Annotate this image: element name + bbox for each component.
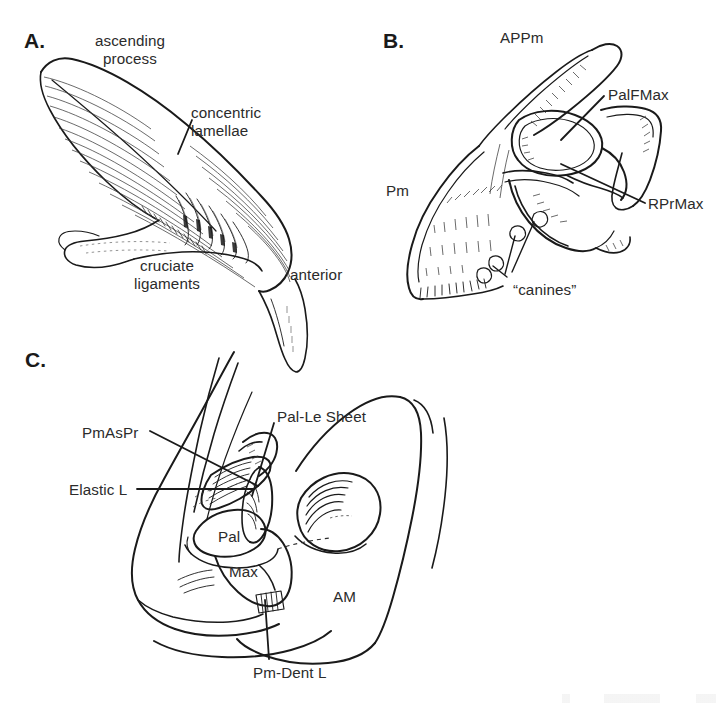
label-pal-le-sheet: Pal-Le Sheet — [277, 408, 366, 426]
label-pal: Pal — [218, 528, 240, 546]
label-rprmax: RPrMax — [648, 195, 703, 213]
label-anterior: anterior — [290, 266, 342, 284]
label-max: Max — [229, 563, 258, 581]
label-am: AM — [333, 588, 356, 606]
panel-letter-b: B. — [383, 30, 404, 51]
leader-canine-3 — [493, 266, 507, 277]
anatomical-figure: A. B. C. ascending process concentric la… — [0, 0, 725, 708]
figure-artwork — [0, 0, 725, 708]
leader-pal-le-sheet — [252, 423, 274, 496]
panel-b-artwork — [407, 44, 661, 299]
max-am-connector — [278, 538, 330, 549]
panel-letter-a: A. — [24, 30, 45, 51]
label-concentric-lamellae: concentric lamellae — [191, 104, 261, 140]
panel-a-artwork — [40, 58, 307, 372]
label-appm: APPm — [500, 29, 543, 47]
label-cruciate-ligaments: cruciate ligaments — [134, 257, 200, 293]
leader-palfmax — [561, 96, 604, 140]
leader-canine-2 — [505, 236, 515, 274]
label-ascending-process: ascending process — [95, 32, 165, 68]
label-pm-dent-l: Pm-Dent L — [253, 664, 327, 682]
panel-letter-c: C. — [25, 349, 46, 370]
leader-pm-dent-l — [265, 600, 269, 659]
leader-rprmax — [561, 164, 645, 203]
label-pm: Pm — [386, 182, 409, 200]
panel-c-artwork — [132, 352, 447, 664]
label-pmaspr: PmAsPr — [82, 424, 138, 442]
leader-canine-1 — [512, 222, 534, 272]
label-palfmax: PalFMax — [608, 86, 669, 104]
page-edge-artifact — [556, 694, 721, 703]
label-elastic-l: Elastic L — [69, 481, 127, 499]
leader-pmaspr — [150, 431, 258, 486]
leader-concentric-lamellae — [178, 120, 192, 154]
label-canines: “canines” — [513, 281, 576, 299]
